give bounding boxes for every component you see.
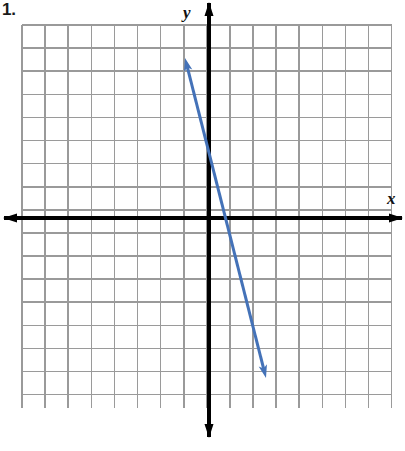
y-axis-arrow-up — [205, 2, 214, 16]
y-axis-label: y — [183, 4, 191, 21]
graph-canvas — [0, 0, 405, 451]
problem-number-label: 1. — [2, 1, 16, 18]
x-axis-arrow-right — [389, 214, 403, 223]
axes — [3, 2, 403, 438]
coordinate-plane-figure: 1. y x — [0, 0, 405, 451]
y-axis-arrow-down — [205, 424, 214, 438]
x-axis-label: x — [387, 190, 396, 207]
x-axis-arrow-left — [3, 214, 17, 223]
